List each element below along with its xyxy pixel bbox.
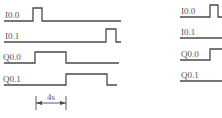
signal-label-q0-0: Q0.0 [3,52,21,62]
time-dimension-marker: 4s [36,92,66,110]
waveform-q0-1 [4,74,117,85]
arrow-left-icon [36,101,42,105]
signal-label-q0-1: Q0.1 [181,70,199,80]
left-timing-panel: I0.0I0.1Q0.0Q0.14s [3,8,121,110]
waveform-q0-0 [4,52,119,63]
dimension-label: 4s [47,92,56,102]
signal-label-q0-1: Q0.1 [3,74,21,84]
right-timing-panel: I0.0I0.1Q0.0Q0.1 [180,5,222,81]
signal-label-i0-1: I0.1 [5,31,19,41]
signal-label-i0-0: I0.0 [181,6,196,16]
timing-diagram: I0.0I0.1Q0.0Q0.14s I0.0I0.1Q0.0Q0.1 [0,0,222,118]
signal-label-i0-0: I0.0 [5,10,20,20]
signal-label-i0-1: I0.1 [181,27,195,37]
waveform-i0-0 [4,8,121,21]
timing-diagram-canvas: I0.0I0.1Q0.0Q0.14s I0.0I0.1Q0.0Q0.1 [0,0,222,118]
waveform-i0-1 [4,29,121,42]
arrow-right-icon [60,101,66,105]
signal-label-q0-0: Q0.0 [181,49,199,59]
